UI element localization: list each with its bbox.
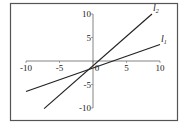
y-tick-label: -10 [79,103,91,113]
x-tick-label: -5 [56,63,64,73]
chart: -10-50510-10-5510 l1l2 [0,0,183,127]
series-label-subscript: 1 [164,39,167,45]
x-tick-label: 5 [124,63,129,73]
x-tick-label: -10 [20,63,32,73]
chart-frame [11,4,178,121]
series-label-subscript: 2 [156,8,159,14]
x-tick-label: 0 [95,63,100,73]
y-tick-label: 5 [87,33,92,43]
y-tick-label: -5 [84,80,92,90]
x-tick-label: 10 [156,63,166,73]
y-tick-label: 10 [82,9,92,19]
